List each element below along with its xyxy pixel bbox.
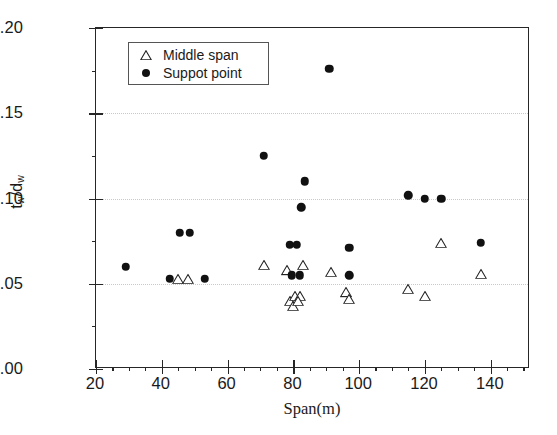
scatter-plot-figure: tw/dw Span(m) 0.00 0.05 0.10 0.15 0.20 2… <box>0 0 557 435</box>
x-tick-label-5: 120 <box>410 374 438 393</box>
legend-label-suppot-point: Suppot point <box>163 65 242 81</box>
data-point-middle-span <box>297 260 309 270</box>
x-tick-major-in-1 <box>162 360 163 367</box>
y-tick-major-3 <box>89 113 96 114</box>
x-tick-label-6: 140 <box>476 374 504 393</box>
data-point-suppot-point <box>404 191 413 200</box>
y-tick-label-1: 0.05 <box>0 273 23 292</box>
data-point-middle-span <box>325 267 337 277</box>
y-tick-minor <box>92 326 96 327</box>
data-point-suppot-point <box>297 203 306 212</box>
x-tick-minor <box>145 367 146 371</box>
data-point-suppot-point <box>176 228 185 237</box>
x-tick-minor <box>112 367 113 371</box>
y-tick-major-in-4 <box>96 28 103 29</box>
x-tick-major-3 <box>293 367 294 374</box>
x-tick-label-2: 60 <box>217 374 235 393</box>
y-tick-minor <box>92 71 96 72</box>
legend-label-middle-span: Middle span <box>163 47 239 63</box>
x-axis-title: Span(m) <box>284 399 341 419</box>
x-tick-major-in-0 <box>96 360 97 367</box>
x-tick-minor <box>244 367 245 371</box>
data-point-suppot-point <box>345 271 354 280</box>
y-tick-label-4: 0.20 <box>0 18 23 37</box>
x-tick-label-4: 100 <box>344 374 372 393</box>
y-axis-title-den-sub: w <box>14 175 26 183</box>
x-tick-minor <box>343 367 344 371</box>
x-tick-minor <box>310 367 311 371</box>
x-tick-minor <box>408 367 409 371</box>
data-point-middle-span <box>182 273 194 283</box>
x-tick-major-0 <box>96 367 97 374</box>
x-tick-major-5 <box>425 367 426 374</box>
x-tick-minor <box>474 367 475 371</box>
x-tick-minor <box>392 367 393 371</box>
x-tick-minor <box>523 367 524 371</box>
data-point-suppot-point <box>345 244 354 253</box>
data-point-suppot-point <box>287 271 296 280</box>
y-tick-label-3: 0.15 <box>0 103 23 122</box>
data-point-suppot-point <box>301 177 310 186</box>
data-point-middle-span <box>258 260 270 270</box>
gridline-y-1 <box>96 199 528 200</box>
x-tick-minor <box>375 367 376 371</box>
y-tick-major-in-2 <box>96 199 103 200</box>
y-tick-minor <box>92 241 96 242</box>
data-point-suppot-point <box>200 274 209 283</box>
data-point-suppot-point <box>259 152 268 161</box>
x-tick-minor <box>178 367 179 371</box>
x-tick-label-0: 20 <box>86 374 104 393</box>
data-point-suppot-point <box>325 65 334 74</box>
x-tick-minor <box>129 367 130 371</box>
x-tick-major-6 <box>491 367 492 374</box>
y-tick-label-0: 0.00 <box>0 359 23 378</box>
data-point-suppot-point <box>121 262 130 271</box>
data-point-suppot-point <box>166 274 175 283</box>
legend: Middle span Suppot point <box>128 42 269 85</box>
x-tick-minor <box>326 367 327 371</box>
triangle-open-icon <box>135 50 157 60</box>
x-tick-major-in-2 <box>228 360 229 367</box>
x-tick-major-in-3 <box>293 360 294 367</box>
x-tick-minor <box>260 367 261 371</box>
y-tick-major-in-1 <box>96 284 103 285</box>
legend-entry-middle-span: Middle span <box>135 46 262 64</box>
data-point-middle-span <box>292 296 304 306</box>
data-point-suppot-point <box>476 239 485 248</box>
x-tick-minor <box>195 367 196 371</box>
y-tick-label-2: 0.10 <box>0 188 23 207</box>
y-tick-major-0 <box>89 369 96 370</box>
x-tick-minor <box>458 367 459 371</box>
data-point-suppot-point <box>292 240 301 249</box>
data-point-suppot-point <box>421 194 430 203</box>
x-tick-major-2 <box>228 367 229 374</box>
y-tick-major-4 <box>89 28 96 29</box>
y-tick-major-in-3 <box>96 113 103 114</box>
x-tick-major-in-4 <box>359 360 360 367</box>
data-point-suppot-point <box>296 271 305 280</box>
data-point-middle-span <box>343 294 355 304</box>
data-point-middle-span <box>435 238 447 248</box>
x-tick-minor <box>507 367 508 371</box>
y-tick-major-1 <box>89 284 96 285</box>
x-tick-label-1: 40 <box>152 374 170 393</box>
gridline-y-2 <box>96 113 528 114</box>
x-tick-minor <box>211 367 212 371</box>
x-tick-label-3: 80 <box>283 374 301 393</box>
y-tick-minor <box>92 156 96 157</box>
x-tick-major-in-5 <box>425 360 426 367</box>
x-tick-major-in-6 <box>491 360 492 367</box>
data-point-middle-span <box>419 290 431 300</box>
circle-filled-icon <box>135 69 157 78</box>
x-tick-major-4 <box>359 367 360 374</box>
data-point-suppot-point <box>185 228 194 237</box>
legend-entry-suppot-point: Suppot point <box>135 64 262 82</box>
x-tick-minor <box>277 367 278 371</box>
data-point-suppot-point <box>437 194 446 203</box>
y-tick-major-2 <box>89 199 96 200</box>
data-point-middle-span <box>402 284 414 294</box>
gridline-y-0 <box>96 284 528 285</box>
data-point-middle-span <box>475 268 487 278</box>
x-tick-minor <box>441 367 442 371</box>
x-tick-major-1 <box>162 367 163 374</box>
